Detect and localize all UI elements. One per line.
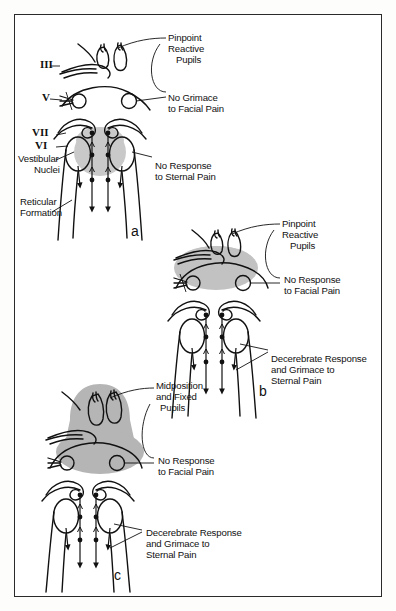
panel-a-label-cn6: VI <box>35 140 47 151</box>
panel-c-label-pupils-3: Pupils <box>160 402 185 413</box>
panel-letter-b: b <box>259 384 267 398</box>
panel-a-cn5-right <box>122 94 137 109</box>
panel-a-art <box>50 38 166 240</box>
panel-a-label-sternal-1: No Response <box>155 160 211 171</box>
panel-c-label-sternal-3: Sternal Pain <box>146 549 196 560</box>
panel-a-label-cn3: III <box>40 59 53 70</box>
panel-b-label-facial-2: to Facial Pain <box>284 285 340 296</box>
panel-b-label-pupils-1: Pinpoint <box>282 218 315 229</box>
panel-b-label-facial-1: No Response <box>284 274 340 285</box>
panel-a-label-facial-1: No Grimace <box>168 92 218 103</box>
panel-letter-c: c <box>114 568 121 582</box>
panel-c-reticular-tracts <box>66 493 110 566</box>
panel-c-label-sternal-1: Decerebrate Response <box>146 527 242 538</box>
panel-b-label-sternal-2: and Grimace to <box>271 364 335 375</box>
panel-c-label-facial-1: No Response <box>158 455 214 466</box>
panel-b-label-sternal-1: Decerebrate Response <box>271 353 367 364</box>
panel-a-label-sternal-2: to Sternal Pain <box>155 171 216 182</box>
panel-c-art <box>42 384 154 592</box>
panel-a-label-reticular-formation-2: Formation <box>20 207 62 218</box>
panel-b-leaders <box>232 224 280 370</box>
panel-a-label-vestibular-nuclei-2: Nuclei <box>34 164 60 175</box>
panel-c-label-sternal-2: and Grimace to <box>146 538 210 549</box>
panel-a-label-pupils-2: Reactive <box>168 43 204 54</box>
panel-a-label-facial-2: to Facial Pain <box>168 103 224 114</box>
panel-a-label-cn5: V <box>42 92 50 103</box>
panel-c-label-facial-2: to Facial Pain <box>158 466 214 477</box>
panel-a-label-vestibular-nuclei-1: Vestibular <box>18 153 59 164</box>
panel-a-label-reticular-formation-1: Reticular <box>20 196 57 207</box>
panel-a-label-pupils-3: Pupils <box>176 54 201 65</box>
panel-b-label-sternal-3: Sternal Pain <box>271 375 321 386</box>
panel-letter-a: a <box>131 224 139 238</box>
panel-a-label-pupils-1: Pinpoint <box>168 32 201 43</box>
panel-c-label-pupils-1: Midposition <box>156 380 203 391</box>
panel-a-label-cn7: VII <box>32 127 49 138</box>
panel-b-label-pupils-3: Pupils <box>290 240 315 251</box>
panel-c-label-pupils-2: and Fixed <box>156 391 197 402</box>
panel-b-label-pupils-2: Reactive <box>282 229 318 240</box>
